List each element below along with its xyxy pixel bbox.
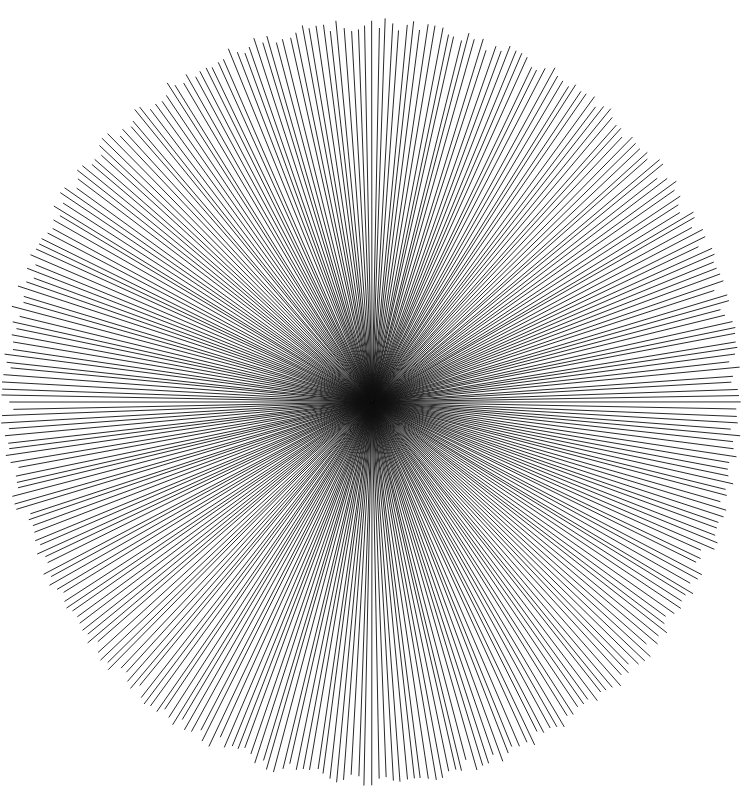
artboard [0, 0, 745, 792]
starburst-figure [0, 0, 745, 792]
